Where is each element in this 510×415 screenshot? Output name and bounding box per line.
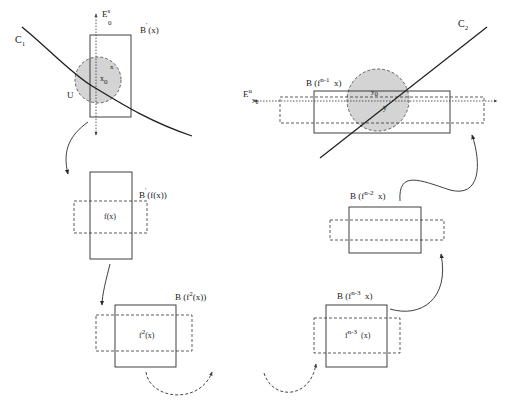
box-fn2x-dashed [330,220,444,240]
label-y: y [383,104,387,112]
arrow-x-to-fx [66,122,88,174]
label-y0: y0 [371,89,378,98]
label-c2: C2 [458,19,468,32]
label-box-b-x: B (x) [140,26,159,35]
neighborhood-fn2x [330,207,444,253]
arrow-fn3x-to-fn2x [390,254,443,311]
label-box-b-fx-prime: ' [145,187,146,194]
label-fx: f(x) [104,213,116,221]
arrow-fx-to-f2x [102,264,110,305]
label-c1: C1 [15,35,25,48]
neighborhood-u-disk [75,57,121,103]
arrow-f2x-continue [146,372,212,395]
label-box-b-fn2x: B (fn-2 x) [350,190,386,201]
label-unstable-axis: Eu [243,88,252,99]
arrow-fn2x-to-fn1x [400,135,478,201]
label-stable-axis: Es [102,8,110,19]
curve-c2 [320,27,487,158]
label-box-b-f2x: B (f2(x)) [175,291,206,302]
label-box-b-fn1x: B (fn-1 x) [306,77,342,88]
hyperbolic-iteration-diagram [0,0,510,415]
label-box-b-fn3x: B (fn-3 x) [337,290,373,301]
arrow-continue-to-fn3x [264,364,316,392]
label-unstable-axis-sub: y0 [252,97,258,106]
label-stable-axis-sub: 0 [108,20,112,27]
label-fn3x: fn-3 (x) [345,329,370,340]
label-u: U [67,91,74,100]
box-b-fn2x [349,207,421,253]
label-x: x [110,64,114,71]
label-box-b-fx: B (f(x)) [139,191,167,200]
neighborhood-y-disk [347,69,409,131]
label-f2x: f2(x) [139,329,155,340]
label-box-b-x-prime: ' [146,22,147,29]
label-x0: x0 [100,75,108,86]
